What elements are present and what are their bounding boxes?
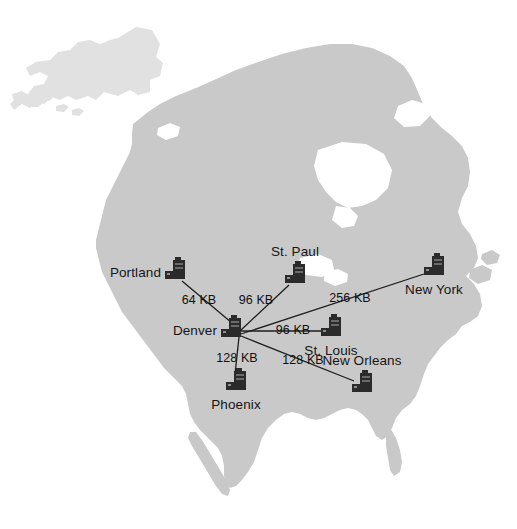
server-icon [318, 314, 344, 344]
node-label-stpaul: St. Paul [271, 244, 319, 259]
server-icon [349, 370, 375, 400]
node-label-portland: Portland [110, 265, 161, 280]
server-icon [218, 315, 244, 345]
node-label-neworleans: New Orleans [322, 353, 401, 368]
bandwidth-label-portland-denver: 64 KB [182, 293, 217, 307]
node-label-newyork: New York [405, 282, 463, 297]
bandwidth-label-stpaul-denver: 96 KB [239, 293, 274, 307]
network-map-diagram: PortlandSt. PaulNew YorkDenverSt. LouisP… [0, 0, 517, 529]
server-icon [223, 368, 249, 398]
alaska [10, 27, 163, 116]
node-label-denver: Denver [173, 323, 217, 338]
bandwidth-label-stlouis-denver: 96 KB [276, 323, 311, 337]
server-icon [421, 253, 447, 283]
server-icon [282, 261, 308, 291]
bandwidth-label-neworleans-denver: 128 KB [282, 353, 324, 367]
server-icon [162, 257, 188, 287]
bandwidth-label-newyork-denver: 256 KB [329, 291, 371, 305]
bandwidth-label-phoenix-denver: 128 KB [216, 351, 258, 365]
node-label-phoenix: Phoenix [211, 397, 261, 412]
